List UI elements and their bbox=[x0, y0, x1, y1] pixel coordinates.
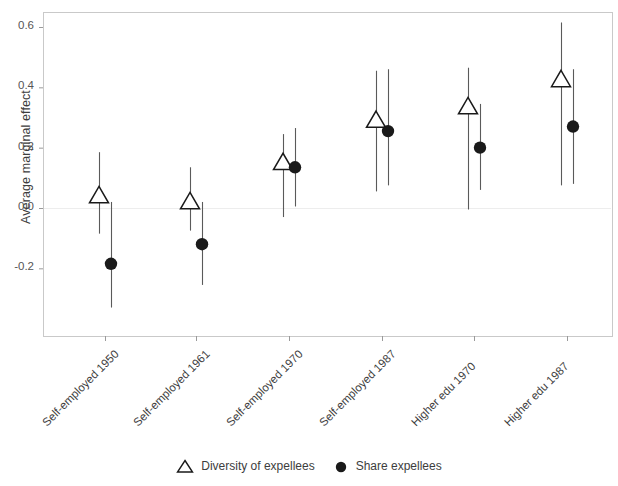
y-axis-tick-label: 0.4 bbox=[0, 79, 34, 91]
data-point-triangle bbox=[367, 111, 386, 127]
data-point-circle bbox=[289, 161, 301, 173]
data-point-triangle bbox=[552, 70, 571, 86]
data-point-triangle bbox=[459, 97, 478, 113]
legend-item-diversity: Diversity of expellees bbox=[176, 458, 314, 474]
y-axis-tick-label: 0.6 bbox=[0, 19, 34, 31]
chart-figure: Average marginal effect 0.60.40.20.0-0.2… bbox=[0, 0, 618, 486]
data-point-circle bbox=[474, 141, 486, 153]
y-axis-title: Average marginal effect bbox=[19, 27, 33, 287]
legend-item-share: Share expellees bbox=[333, 458, 442, 474]
data-point-circle bbox=[567, 120, 579, 132]
data-point-triangle bbox=[90, 186, 109, 202]
y-axis-tick-label: 0.0 bbox=[0, 200, 34, 212]
legend-label-diversity: Diversity of expellees bbox=[201, 459, 314, 473]
data-point-circle bbox=[196, 238, 208, 250]
chart-legend: Diversity of expellees Share expellees bbox=[0, 458, 618, 474]
y-axis-tick-label: 0.2 bbox=[0, 140, 34, 152]
legend-label-share: Share expellees bbox=[356, 459, 442, 473]
data-point-triangle bbox=[181, 192, 200, 208]
circle-filled-icon bbox=[333, 458, 349, 474]
plot-frame bbox=[44, 13, 613, 337]
triangle-open-icon bbox=[176, 458, 194, 474]
y-axis-tick-label: -0.2 bbox=[0, 260, 34, 272]
data-point-circle bbox=[382, 125, 394, 137]
data-point-circle bbox=[105, 258, 117, 270]
